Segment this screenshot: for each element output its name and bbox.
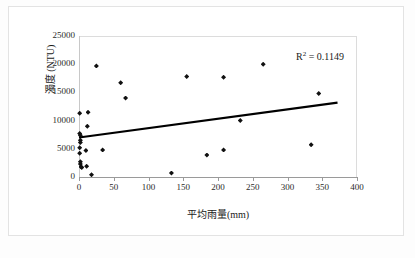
x-axis-title: 平均雨量(mm)	[79, 206, 357, 221]
y-axis-tick-label: 5000	[3, 143, 75, 153]
y-axis-line	[79, 36, 80, 178]
y-axis-tick-labels: 0500010000150002000025000	[0, 0, 75, 258]
x-axis-tick	[357, 177, 358, 181]
y-axis-tick-label: 15000	[3, 86, 75, 96]
figure-container: 0500010000150002000025000 濁度 (NTU) 05010…	[0, 0, 415, 258]
x-axis-tick-label: 400	[337, 182, 377, 192]
r-squared-annotation: R2 = 0.1149	[296, 50, 344, 62]
y-axis-title: 濁度 (NTU)	[42, 15, 57, 125]
x-axis-tick	[288, 177, 289, 181]
x-axis-tick	[183, 177, 184, 181]
x-axis-tick	[79, 177, 80, 181]
y-axis-tick-label: 20000	[3, 58, 75, 68]
y-axis-tick-label: 25000	[3, 30, 75, 40]
r-squared-symbol: R	[296, 51, 303, 62]
x-axis-tick	[253, 177, 254, 181]
x-axis-tick	[322, 177, 323, 181]
r-squared-value: = 0.1149	[306, 51, 344, 62]
x-axis-tick	[218, 177, 219, 181]
y-axis-tick-label: 0	[3, 171, 75, 181]
x-axis-tick	[114, 177, 115, 181]
x-axis-tick	[149, 177, 150, 181]
y-axis-tick-label: 10000	[3, 115, 75, 125]
